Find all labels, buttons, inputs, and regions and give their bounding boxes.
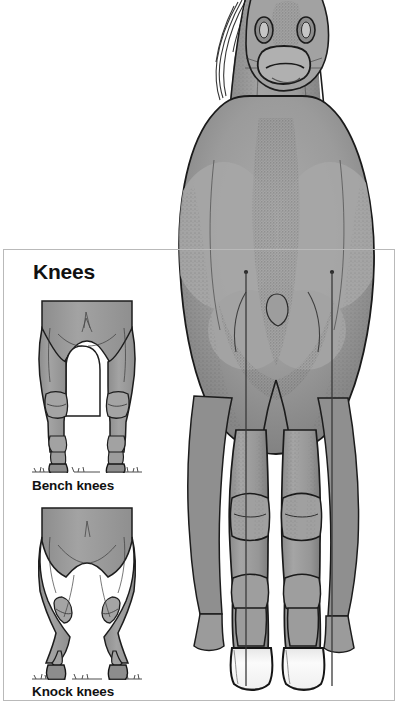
knock-hoof-right bbox=[109, 665, 128, 680]
bench-knees-caption: Bench knees bbox=[32, 478, 114, 493]
knees-inset-panel: Knees bbox=[3, 249, 395, 701]
horse-head bbox=[245, 0, 329, 91]
knock-knees-svg bbox=[28, 505, 146, 680]
knock-hoof-left bbox=[47, 665, 66, 680]
bench-knees-diagram bbox=[28, 298, 146, 473]
bench-knees-svg bbox=[28, 298, 146, 473]
knock-knees-caption: Knock knees bbox=[32, 684, 114, 699]
muzzle bbox=[258, 46, 311, 84]
illustration-page: Knees bbox=[0, 0, 400, 726]
panel-title: Knees bbox=[33, 260, 95, 284]
knock-knees-diagram bbox=[28, 505, 146, 680]
